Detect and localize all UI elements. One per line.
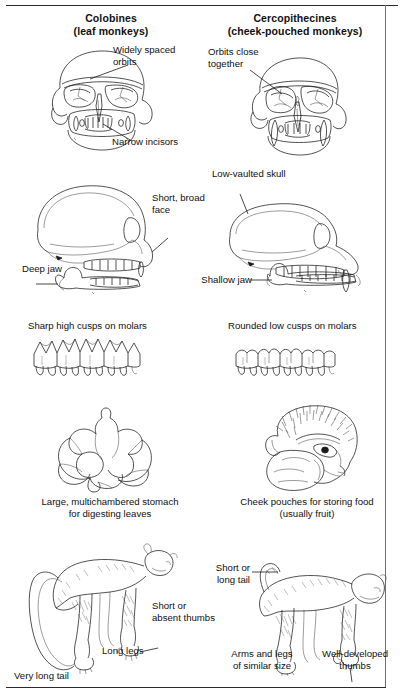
column-title-colobines: Colobines bbox=[26, 12, 196, 25]
cercopithecine-mandible-illustration bbox=[258, 254, 368, 296]
column-header-cercopithecines: Cercopithecines (cheek-pouched monkeys) bbox=[200, 12, 390, 38]
column-header-colobines: Colobines (leaf monkeys) bbox=[26, 12, 196, 38]
label-sharp-high-cusps: Sharp high cusps on molars bbox=[28, 320, 208, 332]
label-very-long-tail: Very long tail bbox=[14, 670, 104, 682]
colobine-molar-row-illustration bbox=[30, 336, 150, 382]
label-well-developed-thumbs: Well-developed thumbs bbox=[314, 648, 396, 673]
label-shallow-jaw: Shallow jaw bbox=[186, 274, 252, 286]
column-subtitle-cercopithecines: (cheek-pouched monkeys) bbox=[200, 25, 390, 38]
comparison-figure: Colobines (leaf monkeys) Cercopithecines… bbox=[0, 0, 400, 699]
label-orbits-close-together: Orbits close together bbox=[208, 46, 288, 71]
label-widely-spaced-orbits: Widely spaced orbits bbox=[113, 44, 203, 69]
caption-cheek-pouches: Cheek pouches for storing food (usually … bbox=[212, 496, 400, 521]
label-short-or-absent-thumbs: Short or absent thumbs bbox=[152, 600, 232, 625]
caption-multichambered-stomach: Large, multichambered stomach for digest… bbox=[10, 496, 210, 521]
cheek-pouch-head-illustration bbox=[252, 402, 370, 494]
label-deep-jaw: Deep jaw bbox=[2, 263, 62, 275]
label-low-vaulted-skull: Low-vaulted skull bbox=[212, 168, 322, 180]
column-title-cercopithecines: Cercopithecines bbox=[200, 12, 390, 25]
label-arms-legs-similar-size: Arms and legs of similar size bbox=[208, 648, 316, 673]
label-long-legs: Long legs bbox=[102, 645, 172, 657]
cercopithecine-molar-row-illustration bbox=[232, 340, 350, 382]
label-short-broad-face: Short, broad face bbox=[152, 192, 218, 217]
label-narrow-incisors: Narrow incisors bbox=[112, 136, 207, 148]
top-rule bbox=[6, 5, 398, 6]
label-rounded-low-cusps: Rounded low cusps on molars bbox=[228, 320, 400, 332]
sacculated-stomach-illustration bbox=[48, 406, 166, 494]
label-short-or-long-tail: Short or long tail bbox=[182, 562, 250, 587]
bottom-rule bbox=[6, 687, 386, 688]
column-subtitle-colobines: (leaf monkeys) bbox=[26, 25, 196, 38]
